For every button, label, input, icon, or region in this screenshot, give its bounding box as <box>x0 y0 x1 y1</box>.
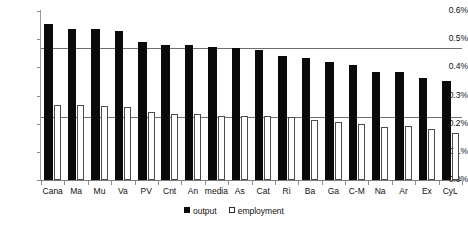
bar-output <box>208 47 217 180</box>
bar-output <box>325 62 334 180</box>
bar-output <box>442 81 451 180</box>
bar-employment <box>148 112 155 180</box>
bar-output <box>278 56 287 180</box>
bar-employment <box>452 133 459 180</box>
x-axis-tick-mark <box>41 181 42 185</box>
bar-employment <box>124 107 131 180</box>
bar-output <box>161 45 170 180</box>
x-axis-tick-label: C-M <box>345 186 368 196</box>
bar-employment <box>101 106 108 180</box>
legend-item-employment: employment <box>229 205 284 216</box>
x-axis-tick-label: Ar <box>392 186 415 196</box>
bar-output <box>419 78 428 180</box>
x-axis-tick-label: Cnt <box>158 186 181 196</box>
bar-output <box>44 24 53 180</box>
bar-output <box>185 45 194 180</box>
bar-output <box>395 72 404 180</box>
x-axis-tick-label: media <box>205 186 228 196</box>
x-axis-tick-mark <box>111 181 112 185</box>
bar-employment <box>311 120 318 180</box>
bar-employment <box>241 116 248 180</box>
bar-output <box>138 42 147 180</box>
legend-swatch-output-icon <box>184 207 190 213</box>
x-axis-tick-mark <box>88 181 89 185</box>
legend-item-output: output <box>184 205 217 216</box>
x-axis-tick-mark <box>135 181 136 185</box>
x-axis-tick-label: Ma <box>64 186 87 196</box>
bar-output <box>255 50 264 180</box>
legend-label: employment <box>238 206 284 216</box>
chart-legend: outputemployment <box>0 205 468 216</box>
bar-employment <box>218 116 225 180</box>
bars-layer <box>41 0 462 181</box>
bar-employment <box>171 114 178 180</box>
x-axis-tick-mark <box>322 181 323 185</box>
x-axis-tick-mark <box>205 181 206 185</box>
x-axis-tick-label: Ex <box>415 186 438 196</box>
bar-employment <box>428 129 435 180</box>
bar-employment <box>358 124 365 180</box>
x-axis-tick-mark <box>392 181 393 185</box>
x-axis-tick-label: Na <box>368 186 391 196</box>
bar-output <box>91 29 100 180</box>
bar-output <box>232 48 241 180</box>
x-axis-tick-mark <box>462 181 463 185</box>
x-axis-tick-label: An <box>181 186 204 196</box>
bar-output <box>302 58 311 180</box>
x-axis-tick-label: PV <box>135 186 158 196</box>
bar-employment <box>335 122 342 180</box>
x-axis-tick-label: Va <box>111 186 134 196</box>
bar-employment <box>77 105 84 180</box>
x-axis-tick-mark <box>64 181 65 185</box>
bar-employment <box>381 127 388 180</box>
bar-employment <box>288 117 295 180</box>
x-axis-tick-mark <box>345 181 346 185</box>
x-axis-tick-mark <box>252 181 253 185</box>
x-axis-tick-label: Ri <box>275 186 298 196</box>
x-axis-tick-label: Ba <box>298 186 321 196</box>
x-axis-tick-mark <box>158 181 159 185</box>
bar-output <box>349 65 358 180</box>
x-axis-tick-mark <box>181 181 182 185</box>
bar-output <box>372 72 381 180</box>
bar-employment <box>54 105 61 180</box>
x-axis-tick-mark <box>368 181 369 185</box>
x-axis-tick-mark <box>415 181 416 185</box>
x-axis-tick-label: Cat <box>252 186 275 196</box>
x-axis-tick-mark <box>298 181 299 185</box>
x-axis-tick-label: Ga <box>322 186 345 196</box>
x-axis-tick-label: CyL <box>439 186 462 196</box>
x-axis-tick-mark <box>275 181 276 185</box>
x-axis-tick-mark <box>228 181 229 185</box>
chart-container: 0.6%0.5%0.4%0.3%0.2%0.1%0.0% CanaMaMuVaP… <box>0 0 468 227</box>
x-axis-tick-label: Mu <box>88 186 111 196</box>
bar-output <box>68 29 77 180</box>
bar-employment <box>194 114 201 180</box>
legend-label: output <box>193 206 217 216</box>
x-axis-tick-mark <box>439 181 440 185</box>
bar-employment <box>405 126 412 180</box>
bar-employment <box>264 116 271 180</box>
x-axis-tick-label: As <box>228 186 251 196</box>
bar-output <box>115 31 124 180</box>
x-axis-tick-label: Cana <box>41 186 64 196</box>
legend-swatch-employment-icon <box>229 207 235 213</box>
